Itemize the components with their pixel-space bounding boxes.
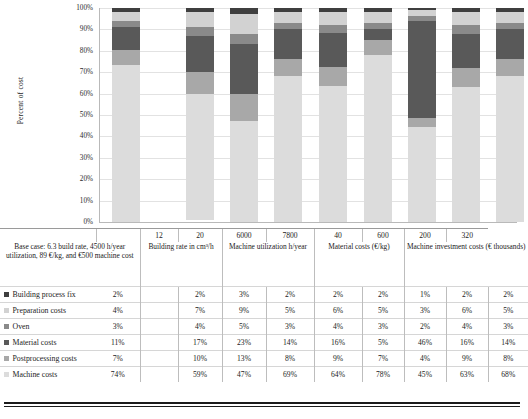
chart-area: Percent of cost 100%90%80%70%60%50%40%30…	[0, 0, 524, 236]
stacked-bar	[112, 8, 140, 222]
value-cell: 16%	[446, 335, 488, 351]
bar-segment	[408, 127, 436, 222]
table-category-row: 12206000780040600200320	[0, 229, 528, 243]
y-axis-tick-labels: 100%90%80%70%60%50%40%30%20%10%0%	[58, 8, 96, 222]
stacked-bar	[364, 8, 392, 222]
bar-segment	[452, 12, 480, 25]
value-cell	[140, 351, 178, 367]
value-cell: 2%	[404, 319, 446, 335]
bar-segment	[364, 40, 392, 55]
y-axis-title: Percent of cost	[16, 41, 25, 161]
bar-segment	[186, 12, 214, 27]
y-tick-90: 90%	[80, 25, 93, 33]
value-cell	[140, 335, 178, 351]
category-cell: 200	[404, 229, 446, 243]
group-header-cell: Machine utilization h/year	[222, 242, 314, 287]
legend-entry: Oven	[0, 319, 96, 335]
value-cell: 3%	[266, 319, 314, 335]
value-cell: 7%	[178, 303, 222, 319]
value-cell	[140, 319, 178, 335]
value-cell: 9%	[446, 351, 488, 367]
value-cell: 5%	[266, 303, 314, 319]
value-cell: 9%	[222, 303, 266, 319]
bar-segment	[112, 50, 140, 65]
value-cell	[140, 303, 178, 319]
value-cell: 14%	[488, 335, 528, 351]
category-cell	[96, 229, 140, 243]
bar-segment	[408, 21, 436, 118]
value-cell: 17%	[178, 335, 222, 351]
bar-segment	[496, 59, 524, 76]
bar-segment	[319, 67, 347, 86]
bar-segment	[186, 27, 214, 36]
stacked-bar	[186, 8, 214, 222]
value-cell: 5%	[488, 303, 528, 319]
value-cell: 4%	[178, 319, 222, 335]
data-table-wrapper: 12206000780040600200320Base case: 6.3 bu…	[0, 228, 524, 382]
stacked-bar	[408, 8, 436, 222]
value-cell: 2%	[266, 287, 314, 303]
legend-entry: Building process fix	[0, 287, 96, 303]
bar-segment	[112, 65, 140, 222]
table-row: Machine costs74%59%47%69%64%78%45%63%68%	[0, 367, 528, 383]
value-cell: 2%	[178, 287, 222, 303]
legend-swatch-icon	[4, 292, 9, 297]
legend-swatch-icon	[4, 340, 9, 345]
value-cell: 6%	[446, 303, 488, 319]
bar-segment	[274, 59, 302, 76]
bar-segment	[274, 29, 302, 59]
bar-segment	[186, 94, 214, 220]
bottom-rule-thin	[4, 406, 520, 407]
y-tick-100: 100%	[76, 4, 93, 12]
bar-segment	[452, 34, 480, 68]
group-header-cell: Material costs (€/kg)	[314, 242, 404, 287]
cost-breakdown-table: 12206000780040600200320Base case: 6.3 bu…	[0, 228, 528, 382]
value-cell: 5%	[362, 303, 404, 319]
value-cell: 63%	[446, 367, 488, 383]
y-tick-70: 70%	[80, 68, 93, 76]
bar-segment	[230, 34, 258, 45]
value-cell: 59%	[178, 367, 222, 383]
bar-segment	[274, 76, 302, 222]
bar-segment	[186, 36, 214, 72]
value-cell: 13%	[222, 351, 266, 367]
legend-label: Postprocessing costs	[13, 354, 77, 363]
bar-segment	[364, 29, 392, 40]
group-header-cell: Machine investment costs (€ thousands)	[404, 242, 528, 287]
bar-segment	[230, 94, 258, 122]
y-tick-60: 60%	[80, 90, 93, 98]
value-cell: 11%	[96, 335, 140, 351]
value-cell: 16%	[314, 335, 362, 351]
legend-entry: Preparation costs	[0, 303, 96, 319]
legend-swatch-icon	[4, 324, 9, 329]
value-cell: 9%	[314, 351, 362, 367]
bar-segment	[112, 12, 140, 20]
value-cell: 3%	[404, 303, 446, 319]
legend-label: Machine costs	[13, 370, 58, 379]
value-cell	[140, 287, 178, 303]
bar-segment	[319, 12, 347, 25]
value-cell: 3%	[488, 319, 528, 335]
legend-entry: Machine costs	[0, 367, 96, 383]
bar-segment	[452, 87, 480, 222]
value-cell: 2%	[96, 287, 140, 303]
bar-segment	[230, 44, 258, 93]
legend-label: Material costs	[13, 338, 57, 347]
value-cell: 68%	[488, 367, 528, 383]
value-cell: 10%	[178, 351, 222, 367]
value-cell: 3%	[96, 319, 140, 335]
value-cell: 4%	[446, 319, 488, 335]
value-cell: 45%	[404, 367, 446, 383]
bar-segment	[496, 76, 524, 222]
category-cell: 600	[362, 229, 404, 243]
y-tick-30: 30%	[80, 154, 93, 162]
value-cell: 2%	[488, 287, 528, 303]
category-cell	[0, 229, 96, 243]
category-cell: 320	[446, 229, 488, 243]
category-cell: 6000	[222, 229, 266, 243]
value-cell: 5%	[362, 335, 404, 351]
table-row: Oven3%4%5%3%4%3%2%4%3%	[0, 319, 528, 335]
bar-segment	[319, 25, 347, 33]
value-cell: 64%	[314, 367, 362, 383]
